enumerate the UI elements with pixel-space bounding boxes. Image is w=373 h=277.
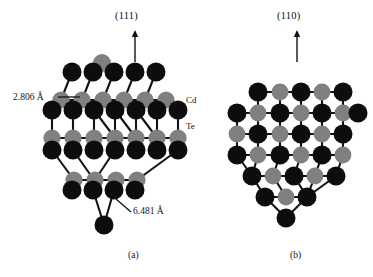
atom-cd [126,63,145,82]
atom-cd [228,146,247,165]
atom-cd [249,83,268,102]
atom-cd [147,63,166,82]
atom-cd [298,188,317,207]
direction-arrow-head-a [132,30,138,37]
atom-cd [277,209,296,228]
direction-label-110: (110) [277,10,300,21]
atom-cd [127,141,146,160]
atom-cd [313,146,332,165]
leader-line [116,199,131,212]
caption-panel-a: (a) [128,250,139,260]
atom-cd [85,141,104,160]
atom-cd [127,101,146,120]
bond-length-annotation: 2.806 Å [13,92,44,102]
direction-arrows [132,30,300,62]
atom-cd [63,63,82,82]
atom-te [272,84,289,101]
atom-cd [84,181,103,200]
atom-cd [327,167,346,186]
atom-cd [271,146,290,165]
atom-cd [106,101,125,120]
atom-te [265,168,282,185]
atom-cd [271,104,290,123]
atom-te [250,105,267,122]
atom-cd [228,104,247,123]
crystal-structure-figure: (111) 2.806 Å 6.481 Å Cd Te (a) (110) (b… [0,0,373,277]
atom-cd [105,181,124,200]
atom-te [335,147,352,164]
atom-cd [126,181,145,200]
atom-te [229,126,246,143]
atom-cd [64,141,83,160]
atom-te [272,126,289,143]
caption-panel-b: (b) [290,250,301,260]
atom-cd [292,83,311,102]
direction-arrow-head-b [294,30,300,37]
lattice-constant-annotation: 6.481 Å [133,206,164,216]
atom-te [293,105,310,122]
te-label: Te [186,121,195,131]
lattice-canvas [0,0,373,277]
atom-te [314,84,331,101]
atom-cd [43,141,62,160]
atom-cd [292,125,311,144]
atom-te [278,189,295,206]
atom-te [314,126,331,143]
atom-cd [243,167,262,186]
atom-cd [106,141,125,160]
atoms-panel-a [43,54,188,235]
atom-te [307,168,324,185]
atom-cd [148,101,167,120]
atom-cd [63,181,82,200]
cd-label: Cd [186,95,197,105]
atom-cd [313,104,332,123]
atom-cd [105,63,124,82]
atom-cd [334,83,353,102]
atom-cd [84,63,103,82]
atom-cd [349,104,368,123]
atom-cd [85,101,104,120]
atom-cd [169,141,188,160]
atom-cd [169,101,188,120]
atom-te [293,147,310,164]
atom-cd [64,101,83,120]
atom-te [250,147,267,164]
atom-cd [249,125,268,144]
atom-cd [148,141,167,160]
atom-cd [334,125,353,144]
direction-label-111: (111) [115,10,138,21]
atom-cd [95,216,114,235]
atom-cd [256,188,275,207]
atom-cd [43,101,62,120]
atom-cd [285,167,304,186]
